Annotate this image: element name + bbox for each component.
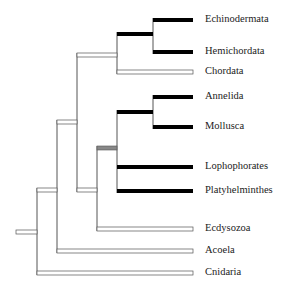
taxon-label-echinodermata: Echinodermata	[205, 13, 269, 25]
stem-root	[16, 230, 37, 234]
taxon-label-ecdysozoa: Ecdysozoa	[205, 222, 250, 234]
taxon-label-annelida: Annelida	[205, 90, 244, 102]
tree-branches	[16, 18, 193, 275]
tip-branch-mollusca	[153, 125, 193, 129]
taxon-label-mollusca: Mollusca	[205, 120, 244, 132]
tip-branch-echinodermata	[153, 18, 193, 22]
stem-bilateria_core	[57, 120, 77, 124]
tip-branch-chordata	[117, 70, 193, 74]
stem-deuterostomes	[77, 53, 117, 57]
taxon-label-hemichordata: Hemichordata	[205, 45, 264, 57]
tip-branch-hemichordata	[153, 50, 193, 54]
taxon-label-platyhelminthes: Platyhelminthes	[205, 184, 273, 196]
tip-branch-annelida	[153, 95, 193, 99]
stem-protostomes	[77, 188, 97, 192]
taxon-label-chordata: Chordata	[205, 65, 244, 77]
taxon-label-cnidaria: Cnidaria	[205, 266, 241, 278]
tip-branch-lophophorates	[117, 165, 193, 169]
stem-bilateria	[37, 188, 57, 192]
stem-echino_hemi	[117, 32, 153, 36]
stem-lophotrochozoa	[97, 146, 117, 150]
tip-branch-ecdysozoa	[97, 227, 193, 231]
tip-branch-platyhelminthes	[117, 189, 193, 193]
stem-annelid_mollusc	[117, 110, 153, 114]
tip-branch-acoela	[57, 249, 193, 253]
tip-branch-cnidaria	[37, 271, 193, 275]
taxon-label-lophophorates: Lophophorates	[205, 160, 268, 172]
taxon-label-acoela: Acoela	[205, 244, 235, 256]
